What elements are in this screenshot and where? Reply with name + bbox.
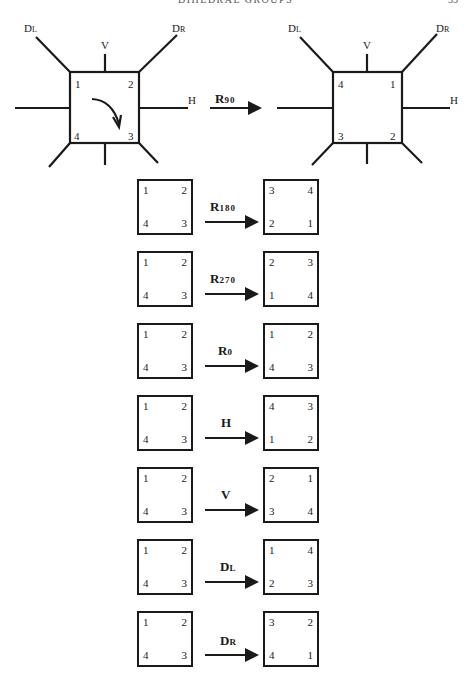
before-square: 1 2 4 3 <box>137 323 193 379</box>
before-square: 1 2 4 3 <box>137 395 193 451</box>
before-corner-1: 1 <box>75 78 81 90</box>
corner-label: 4 <box>269 401 275 412</box>
corner-label: 2 <box>182 473 188 484</box>
after-square: 2 3 1 4 <box>263 251 319 307</box>
transform-row-dl: 1 2 4 3 DL 1 4 2 3 <box>0 539 475 599</box>
corner-label: 2 <box>308 434 314 445</box>
transform-arrow-icon <box>205 287 260 301</box>
corner-label: 4 <box>143 218 149 229</box>
transform-arrow-icon <box>205 503 260 517</box>
operation-label: V <box>221 487 230 503</box>
after-axis-h-label: H <box>450 94 458 106</box>
axis-dl-line <box>300 37 333 72</box>
arrowhead-icon <box>248 101 262 115</box>
corner-label: 3 <box>269 185 275 196</box>
transform-arrow-icon <box>205 215 260 229</box>
operation-label: DR <box>220 633 237 649</box>
transform-row-dr: 1 2 4 3 DR 3 2 4 1 <box>0 611 475 671</box>
corner-label: 1 <box>143 545 149 556</box>
corner-label: 1 <box>143 329 149 340</box>
operation-label: R0 <box>218 343 233 359</box>
corner-label: 3 <box>308 362 314 373</box>
axis-dl-line <box>36 37 70 72</box>
corner-label: 4 <box>143 650 149 661</box>
after-axis-dr-label: DR <box>436 22 450 34</box>
after-square: 1 2 4 3 <box>263 323 319 379</box>
after-square: 2 1 3 4 <box>263 467 319 523</box>
before-square: 1 2 4 3 <box>137 611 193 667</box>
axis-dr-line-lower <box>312 143 333 165</box>
corner-label: 1 <box>143 257 149 268</box>
corner-label: 1 <box>308 218 314 229</box>
transform-arrow-icon <box>205 431 260 445</box>
before-square-diagram <box>15 35 188 167</box>
corner-label: 2 <box>182 545 188 556</box>
corner-label: 4 <box>143 362 149 373</box>
operation-label: DL <box>220 559 236 575</box>
corner-label: 4 <box>308 185 314 196</box>
after-corner-tl: 4 <box>338 78 344 90</box>
corner-label: 3 <box>269 617 275 628</box>
r90-label: R90 <box>215 91 235 106</box>
corner-label: 4 <box>308 290 314 301</box>
corner-label: 3 <box>182 218 188 229</box>
before-axis-dl-label: DL <box>24 22 37 34</box>
before-axis-dr-label: DR <box>172 22 186 34</box>
corner-label: 3 <box>182 362 188 373</box>
transform-arrow-icon <box>205 359 260 373</box>
transform-row-h: 1 2 4 3 H 4 3 1 2 <box>0 395 475 455</box>
before-axis-v-label: V <box>101 39 109 51</box>
corner-label: 4 <box>269 650 275 661</box>
corner-label: 3 <box>182 578 188 589</box>
r90-arrow: R90 <box>210 91 262 115</box>
after-square: 4 3 1 2 <box>263 395 319 451</box>
corner-label: 2 <box>182 401 188 412</box>
corner-label: 4 <box>143 578 149 589</box>
transform-arrow-icon <box>205 648 260 662</box>
corner-label: 1 <box>308 473 314 484</box>
corner-label: 2 <box>269 257 275 268</box>
corner-label: 2 <box>182 257 188 268</box>
after-corner-br: 2 <box>390 130 396 142</box>
after-corner-bl: 3 <box>338 130 344 142</box>
corner-label: 3 <box>182 290 188 301</box>
corner-label: 4 <box>308 506 314 517</box>
before-corner-4: 4 <box>74 130 80 142</box>
after-corner-tr: 1 <box>390 78 396 90</box>
corner-label: 4 <box>269 362 275 373</box>
corner-label: 1 <box>269 329 275 340</box>
main-figure: 1 2 3 4 DL DR V H R90 4 1 2 3 DL DR V H <box>0 0 475 180</box>
corner-label: 3 <box>269 506 275 517</box>
corner-label: 1 <box>143 617 149 628</box>
corner-label: 2 <box>182 329 188 340</box>
before-corner-3: 3 <box>128 130 134 142</box>
corner-label: 4 <box>143 290 149 301</box>
corner-label: 3 <box>182 434 188 445</box>
axis-dl-line-lower <box>139 143 158 163</box>
after-axis-v-label: V <box>363 39 371 51</box>
axis-dr-line-lower <box>49 143 70 167</box>
after-square-diagram <box>277 34 450 165</box>
before-square: 1 2 4 3 <box>137 539 193 595</box>
corner-label: 3 <box>182 506 188 517</box>
axis-dr-line <box>139 35 177 72</box>
operation-label: H <box>221 415 231 431</box>
before-corner-2: 2 <box>128 78 134 90</box>
after-square: 3 4 2 1 <box>263 179 319 235</box>
after-square: 3 2 4 1 <box>263 611 319 667</box>
corner-label: 1 <box>269 434 275 445</box>
transform-row-v: 1 2 4 3 V 2 1 3 4 <box>0 467 475 527</box>
corner-label: 4 <box>308 545 314 556</box>
corner-label: 2 <box>308 329 314 340</box>
corner-label: 2 <box>269 578 275 589</box>
corner-label: 2 <box>269 218 275 229</box>
corner-label: 4 <box>143 506 149 517</box>
after-axis-dl-label: DL <box>288 22 301 34</box>
corner-label: 1 <box>143 401 149 412</box>
corner-label: 2 <box>182 185 188 196</box>
before-axis-h-label: H <box>188 94 196 106</box>
operation-label: R270 <box>210 271 236 287</box>
corner-label: 4 <box>143 434 149 445</box>
transform-row-r0: 1 2 4 3 R0 1 2 4 3 <box>0 323 475 383</box>
corner-label: 1 <box>269 545 275 556</box>
